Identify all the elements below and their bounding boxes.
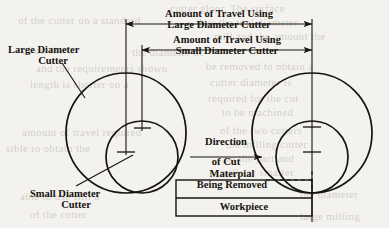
label-workpiece: Workpiece bbox=[192, 201, 296, 212]
leader-line-small-cutter bbox=[76, 155, 133, 186]
travel-small-line-1: Amount of Travel Using bbox=[154, 34, 300, 45]
small-cutter-line-1: Small Diameter bbox=[30, 188, 122, 199]
dimension-label-travel-small: Amount of Travel Using Small Diameter Cu… bbox=[154, 34, 300, 57]
large-cutter-line-1: Large Diameter bbox=[8, 44, 98, 55]
dimension-label-travel-large: Amount of Travel Using Large Diameter Cu… bbox=[146, 8, 292, 31]
direction-of-cut-line-2: of Cut bbox=[193, 156, 259, 167]
direction-of-cut-line-1: Direction bbox=[193, 136, 259, 147]
figure-canvas: cutter gloor. The surfaceof the cutter o… bbox=[0, 0, 389, 228]
leader-line-large-cutter bbox=[62, 63, 85, 98]
material-removed-line-1: Materpial bbox=[178, 168, 286, 179]
material-removed-line-2: Being Removed bbox=[178, 179, 286, 190]
label-material-being-removed: Materpial Being Removed bbox=[178, 168, 286, 191]
travel-large-line-2: Large Diameter Cutter bbox=[146, 19, 292, 30]
large-cutter-line-2: Cutter bbox=[8, 55, 98, 66]
small-cutter-line-2: Cutter bbox=[30, 199, 122, 210]
label-large-diameter-cutter: Large Diameter Cutter bbox=[8, 44, 98, 67]
leader-lines bbox=[62, 63, 133, 186]
travel-large-line-1: Amount of Travel Using bbox=[146, 8, 292, 19]
small-cutter-circle-left bbox=[106, 121, 178, 193]
label-direction-of-cut: Direction of Cut bbox=[193, 136, 259, 168]
label-small-diameter-cutter: Small Diameter Cutter bbox=[30, 188, 122, 211]
travel-small-line-2: Small Diameter Cutter bbox=[154, 45, 300, 56]
